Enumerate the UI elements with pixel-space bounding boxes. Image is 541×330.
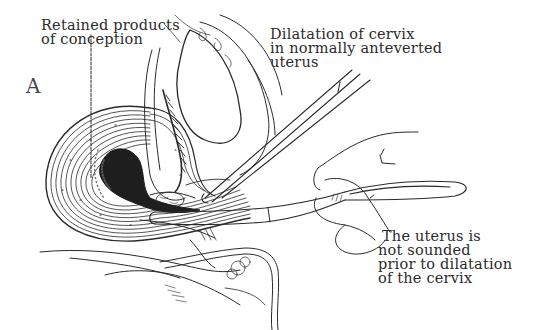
medical-illustration: A Retained products of conception Dilata… [0,0,541,330]
label-retained-products: Retained products of conception [41,18,180,46]
label-line: of the cervix [378,271,512,285]
label-line: Dilatation of cervix [270,27,442,41]
label-line: not sounded [378,243,512,257]
forceps-instrument [202,70,370,203]
label-line: prior to dilatation [378,257,512,271]
vaginal-wall-hatching [163,90,230,192]
label-dilatation: Dilatation of cervix in normally antever… [270,27,442,69]
panel-letter: A [26,74,39,98]
label-not-sounded: The uterus is not sounded prior to dilat… [378,229,512,285]
label-line: of conception [41,32,180,46]
rectum-drawing [40,248,279,330]
retained-products-mass [95,149,200,213]
label-line: in normally anteverted [270,41,442,55]
dilator-instrument [150,181,467,225]
label-line: The uterus is [378,229,512,243]
label-line: uterus [270,55,442,69]
label-line: Retained products [41,18,180,32]
